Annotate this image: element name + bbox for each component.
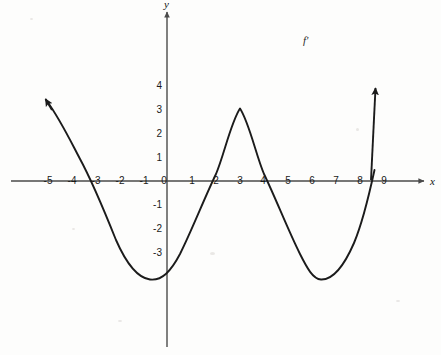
x-tick-label-origin: 0 [157, 176, 171, 186]
function-curve [47, 101, 375, 280]
y-tick-label: 1 [146, 153, 162, 163]
curve-label: f' [303, 35, 308, 46]
y-tick-label: -3 [144, 248, 162, 258]
x-tick-label: 4 [256, 176, 270, 186]
x-tick-label: -2 [112, 176, 128, 186]
x-axis-label: x [430, 176, 435, 187]
x-tick-label: 8 [353, 176, 367, 186]
x-tick-label: 1 [185, 176, 199, 186]
y-tick-label: 3 [146, 105, 162, 115]
x-tick-label: -3 [88, 176, 104, 186]
x-tick-label: -5 [40, 176, 56, 186]
x-tick-label: 3 [233, 176, 247, 186]
x-tick-label: -1 [136, 176, 152, 186]
x-tick-label: 9 [377, 176, 391, 186]
graph-figure: -5 -4 -3 -2 -1 0 1 2 3 4 5 6 7 8 9 4 3 2… [0, 0, 441, 355]
x-tick-label: 6 [305, 176, 319, 186]
x-tick-label: -4 [64, 176, 80, 186]
y-axis-label: y [164, 0, 169, 10]
y-tick-label: -2 [144, 224, 162, 234]
curve-right-arrow [371, 88, 376, 180]
curve-left-arrow [46, 99, 53, 110]
y-tick-label: 4 [146, 81, 162, 91]
x-tick-label: 2 [209, 176, 223, 186]
y-tick-label: -1 [144, 200, 162, 210]
x-tick-label: 7 [329, 176, 343, 186]
x-tick-label: 5 [281, 176, 295, 186]
y-tick-label: 2 [146, 129, 162, 139]
